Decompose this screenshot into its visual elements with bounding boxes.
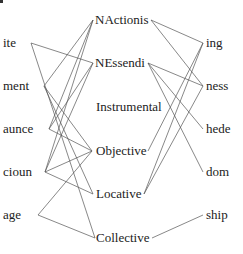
edge-cioun-NActionis	[45, 20, 93, 172]
right-node-dom: dom	[206, 165, 229, 179]
edge-cioun-Objective	[45, 151, 92, 172]
edge-Objective-ing	[148, 43, 203, 151]
edge-aunce-NEssendi	[49, 63, 93, 129]
left-node-ite: ite	[3, 36, 16, 50]
edge-ment-Objective	[44, 86, 92, 151]
edge-age-Objective	[38, 151, 92, 215]
right-node-ship: ship	[206, 208, 228, 222]
middle-node-objective: Objective	[96, 144, 147, 158]
edge-cioun-Locative	[45, 172, 93, 194]
middle-node-locative: Locative	[96, 187, 141, 201]
edge-ment-NActionis	[44, 20, 93, 86]
left-node-age: age	[3, 208, 21, 222]
edge-NEssendi-dom	[148, 63, 203, 172]
middle-node-nactionis: NActionis	[95, 13, 148, 27]
right-node-ing: ing	[206, 36, 223, 50]
left-node-cioun: cioun	[3, 165, 32, 179]
right-node-hede: hede	[206, 122, 231, 136]
edge-ite-Collective	[31, 43, 95, 238]
edge-Collective-ship	[152, 215, 203, 238]
right-node-ness: ness	[206, 79, 228, 93]
edge-ment-Locative	[44, 86, 93, 194]
left-node-ment: ment	[3, 79, 29, 93]
edge-ite-NEssendi	[31, 43, 93, 63]
edge-age-Collective	[38, 215, 95, 238]
left-node-aunce: aunce	[3, 122, 33, 136]
edge-NEssendi-ness	[148, 63, 203, 86]
middle-node-collective: Collective	[96, 231, 149, 245]
middle-node-instrumental: Instrumental	[96, 100, 162, 114]
middle-node-nessendi: NEssendi	[95, 56, 145, 70]
edge-NEssendi-hede	[148, 63, 203, 129]
suffix-semantic-diagram: ite ment aunce cioun age NActionis NEsse…	[0, 0, 243, 254]
edge-NActionis-ing	[151, 20, 203, 43]
